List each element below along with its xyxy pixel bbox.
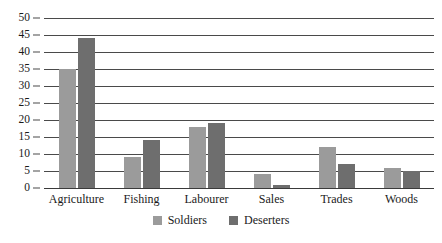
y-axis-tick-mark (33, 171, 40, 172)
axis-baseline (44, 188, 434, 189)
y-axis-tick-label: 15 (19, 131, 31, 143)
bar (143, 140, 160, 188)
bar (254, 174, 271, 188)
bar (403, 171, 420, 188)
bar-group (109, 18, 174, 188)
x-axis-category-label: Sales (239, 190, 304, 210)
legend-item[interactable]: Deserters (229, 214, 289, 226)
bar (319, 147, 336, 188)
y-axis-tick-mark (33, 103, 40, 104)
bar (273, 185, 290, 188)
legend-label: Deserters (244, 214, 289, 226)
y-axis-tick-label: 30 (19, 80, 31, 92)
y-axis-tick-label: 35 (19, 63, 31, 75)
bar (189, 127, 206, 188)
y-axis-tick-mark (33, 69, 40, 70)
y-axis-tick-label: 5 (24, 165, 30, 177)
bars-layer (44, 18, 434, 188)
bar-group (174, 18, 239, 188)
bar (78, 38, 95, 188)
y-axis-tick-mark (33, 137, 40, 138)
chart-legend: SoldiersDeserters (0, 214, 442, 226)
y-axis-tick-label: 10 (19, 148, 31, 160)
bar (338, 164, 355, 188)
y-axis-tick-mark (33, 154, 40, 155)
y-axis-tick-label: 50 (19, 12, 31, 24)
y-axis-tick-mark (33, 188, 40, 189)
x-axis: AgricultureFishingLabourerSalesTradesWoo… (44, 190, 434, 210)
bar-chart: 05101520253035404550 AgricultureFishingL… (0, 0, 442, 243)
y-axis: 05101520253035404550 (0, 18, 40, 188)
legend-swatch-icon (229, 216, 238, 225)
plot-area (44, 18, 434, 188)
bar (384, 168, 401, 188)
bar (124, 157, 141, 188)
bar-group (44, 18, 109, 188)
y-axis-tick-label: 0 (24, 182, 30, 194)
y-axis-tick-label: 40 (19, 46, 31, 58)
bar (59, 69, 76, 188)
x-axis-category-label: Woods (369, 190, 434, 210)
bar-group (369, 18, 434, 188)
x-axis-category-label: Agriculture (44, 190, 109, 210)
x-axis-category-label: Labourer (174, 190, 239, 210)
y-axis-tick-mark (33, 52, 40, 53)
bar-group (239, 18, 304, 188)
x-axis-category-label: Fishing (109, 190, 174, 210)
y-axis-tick-label: 45 (19, 29, 31, 41)
bar (208, 123, 225, 188)
y-axis-tick-label: 25 (19, 97, 31, 109)
legend-swatch-icon (153, 216, 162, 225)
y-axis-tick-label: 20 (19, 114, 31, 126)
y-axis-tick-mark (33, 120, 40, 121)
y-axis-tick-mark (33, 86, 40, 87)
bar-group (304, 18, 369, 188)
legend-label: Soldiers (168, 214, 207, 226)
x-axis-category-label: Trades (304, 190, 369, 210)
legend-item[interactable]: Soldiers (153, 214, 207, 226)
y-axis-tick-mark (33, 18, 40, 19)
y-axis-tick-mark (33, 35, 40, 36)
